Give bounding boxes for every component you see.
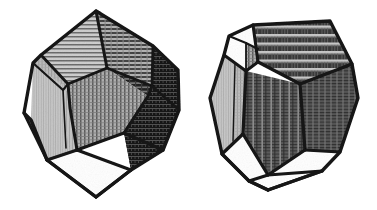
polyhedra-illustration <box>0 0 377 210</box>
edge-right-pentagon-bottom <box>305 150 340 152</box>
edge-apex-right <box>96 11 100 13</box>
engraving-plate <box>0 0 377 210</box>
